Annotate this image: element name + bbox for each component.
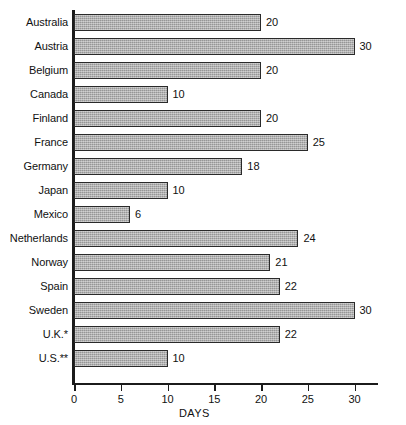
x-axis-tick-mark: [355, 385, 357, 391]
bar-category-label: U.K.*: [0, 326, 68, 343]
bar-category-label: Mexico: [0, 206, 68, 223]
bar-category-label: Netherlands: [0, 230, 68, 247]
bar: [74, 182, 168, 199]
x-axis-tick-label: 15: [199, 392, 229, 406]
bar-category-label: Canada: [0, 86, 68, 103]
bar-value-label: 21: [275, 255, 287, 270]
x-axis-tick-mark: [121, 385, 123, 391]
bar-category-label: Spain: [0, 278, 68, 295]
bar-category-label: Australia: [0, 14, 68, 31]
bar-category-label: Belgium: [0, 62, 68, 79]
x-axis-tick-label: 25: [293, 392, 323, 406]
bar: [74, 62, 261, 79]
bar: [74, 86, 168, 103]
bar: [74, 326, 280, 343]
bar: [74, 110, 261, 127]
bar-category-label: U.S.**: [0, 350, 68, 367]
bar-value-label: 18: [247, 159, 259, 174]
bar: [74, 302, 355, 319]
bar: [74, 14, 261, 31]
bar-category-label: Japan: [0, 182, 68, 199]
bar-value-label: 20: [266, 63, 278, 78]
bar-value-label: 10: [173, 183, 185, 198]
bar: [74, 230, 298, 247]
plot-area: Australia20Austria30Belgium20Canada10Fin…: [0, 0, 406, 425]
bar-category-label: Sweden: [0, 302, 68, 319]
x-axis-tick-label: 0: [59, 392, 89, 406]
bar: [74, 278, 280, 295]
bar: [74, 158, 242, 175]
x-axis-tick-mark: [214, 385, 216, 391]
bar-value-label: 30: [360, 303, 372, 318]
bar-value-label: 25: [313, 135, 325, 150]
bar: [74, 350, 168, 367]
bars-layer: Australia20Austria30Belgium20Canada10Fin…: [0, 0, 406, 425]
bar: [74, 134, 308, 151]
bar-value-label: 24: [303, 231, 315, 246]
bar-category-label: Austria: [0, 38, 68, 55]
bar-category-label: France: [0, 134, 68, 151]
x-axis-title: DAYS: [179, 406, 210, 420]
x-axis-tick-label: 5: [106, 392, 136, 406]
bar-value-label: 6: [135, 207, 141, 222]
bar-category-label: Finland: [0, 110, 68, 127]
bar-value-label: 10: [173, 87, 185, 102]
bar: [74, 206, 130, 223]
bar-category-label: Norway: [0, 254, 68, 271]
bar-value-label: 20: [266, 15, 278, 30]
bar: [74, 254, 270, 271]
x-axis-tick-mark: [261, 385, 263, 391]
bar-value-label: 30: [360, 39, 372, 54]
bar-value-label: 22: [285, 279, 297, 294]
x-axis-tick-label: 10: [153, 392, 183, 406]
bar: [74, 38, 355, 55]
bar-value-label: 20: [266, 111, 278, 126]
bar-value-label: 10: [173, 351, 185, 366]
x-axis-tick-label: 30: [340, 392, 370, 406]
x-axis-tick-mark: [308, 385, 310, 391]
bar-category-label: Germany: [0, 158, 68, 175]
x-axis-tick-mark: [168, 385, 170, 391]
x-axis-tick-label: 20: [246, 392, 276, 406]
bar-value-label: 22: [285, 327, 297, 342]
x-axis-tick-mark: [74, 385, 76, 391]
horizontal-bar-chart: Australia20Austria30Belgium20Canada10Fin…: [0, 0, 406, 425]
